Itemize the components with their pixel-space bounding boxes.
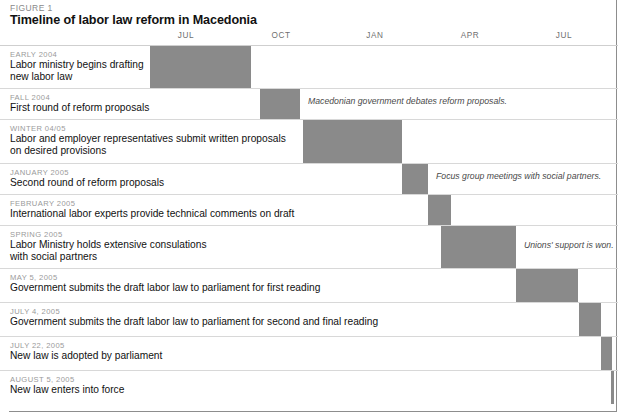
row-date-label: AUGUST 5, 2005 bbox=[10, 375, 256, 384]
row-text-block: AUGUST 5, 2005New law enters into force bbox=[10, 371, 260, 404]
row-text-block: FALL 2004First round of reform proposals bbox=[10, 89, 260, 119]
row-text-block: EARLY 2004Labor ministry begins drafting… bbox=[10, 46, 150, 88]
timeline-bar bbox=[402, 164, 428, 194]
axis-tick-label: JUL bbox=[178, 31, 194, 40]
row-date-label: EARLY 2004 bbox=[10, 50, 146, 59]
row-text-block: FEBRUARY 2005International labor experts… bbox=[10, 195, 309, 225]
timeline-annotation: Focus group meetings with social partner… bbox=[436, 171, 601, 181]
row-date-label: MAY 5, 2005 bbox=[10, 273, 341, 282]
axis-tick-label: JUL bbox=[556, 31, 572, 40]
row-date-label: SPRING 2005 bbox=[10, 230, 231, 239]
axis-tick-label: OCT bbox=[271, 31, 290, 40]
row-date-label: FALL 2004 bbox=[10, 93, 256, 102]
row-description: Government submits the draft labor law t… bbox=[10, 316, 391, 328]
figure-label: FIGURE 1 bbox=[10, 3, 53, 13]
table-row[interactable]: EARLY 2004Labor ministry begins drafting… bbox=[0, 45, 618, 88]
axis-tick-label: APR bbox=[461, 31, 480, 40]
table-row[interactable]: JULY 22, 2005New law is adopted by parli… bbox=[0, 336, 618, 370]
row-description: New law enters into force bbox=[10, 384, 256, 396]
row-date-label: JANUARY 2005 bbox=[10, 168, 258, 177]
row-description: Labor and employer representatives submi… bbox=[10, 133, 299, 158]
table-row[interactable]: WINTER 04/05Labor and employer represent… bbox=[0, 119, 618, 163]
page-title: Timeline of labor law reform in Macedoni… bbox=[10, 13, 257, 27]
time-axis: JULOCTJANAPRJUL bbox=[0, 31, 618, 45]
row-description: International labor experts provide tech… bbox=[10, 208, 305, 220]
row-text-block: JULY 22, 2005New law is adopted by parli… bbox=[10, 337, 260, 370]
row-text-block: JULY 4, 2005Government submits the draft… bbox=[10, 303, 395, 336]
table-row[interactable]: MAY 5, 2005Government submits the draft … bbox=[0, 268, 618, 302]
table-row[interactable]: FEBRUARY 2005International labor experts… bbox=[0, 194, 618, 225]
row-date-label: FEBRUARY 2005 bbox=[10, 199, 305, 208]
row-date-label: JULY 4, 2005 bbox=[10, 307, 391, 316]
timeline-bar bbox=[428, 195, 451, 225]
timeline-bar bbox=[601, 337, 612, 370]
timeline-bar bbox=[579, 303, 601, 336]
row-date-label: JULY 22, 2005 bbox=[10, 341, 256, 350]
row-description: Labor ministry begins drafting new labor… bbox=[10, 59, 146, 84]
timeline-bar bbox=[611, 371, 614, 404]
row-description: Labor Ministry holds extensive consulati… bbox=[10, 239, 231, 264]
axis-tick-label: JAN bbox=[366, 31, 383, 40]
timeline-bar bbox=[516, 269, 578, 302]
row-description: Second round of reform proposals bbox=[10, 177, 258, 189]
timeline-annotation: Macedonian government debates reform pro… bbox=[308, 96, 507, 106]
timeline-annotation: Unions' support is won. bbox=[524, 240, 614, 250]
row-date-label: WINTER 04/05 bbox=[10, 124, 299, 133]
table-row[interactable]: AUGUST 5, 2005New law enters into force bbox=[0, 370, 618, 404]
figure-timeline: FIGURE 1 Timeline of labor law reform in… bbox=[0, 0, 618, 415]
row-text-block: JANUARY 2005Second round of reform propo… bbox=[10, 164, 262, 194]
row-text-block: MAY 5, 2005Government submits the draft … bbox=[10, 269, 345, 302]
timeline-bar bbox=[300, 120, 402, 163]
row-description: Government submits the draft labor law t… bbox=[10, 282, 341, 294]
table-row[interactable]: JULY 4, 2005Government submits the draft… bbox=[0, 302, 618, 336]
row-description: New law is adopted by parliament bbox=[10, 350, 256, 362]
row-text-block: SPRING 2005Labor Ministry holds extensiv… bbox=[10, 226, 235, 268]
timeline-bar bbox=[441, 226, 516, 268]
row-text-block: WINTER 04/05Labor and employer represent… bbox=[10, 120, 303, 163]
row-description: First round of reform proposals bbox=[10, 102, 256, 114]
timeline-bar bbox=[150, 46, 251, 88]
